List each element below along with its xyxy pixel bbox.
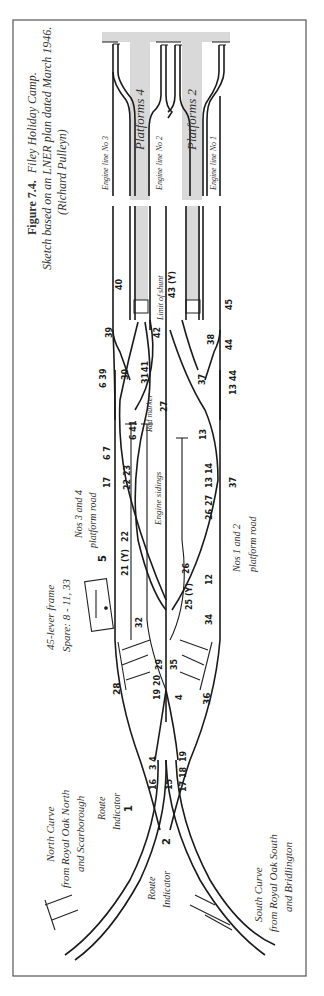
- lever-22: 22: [121, 531, 130, 542]
- engine-line-3-label: Engine line No 3: [101, 136, 110, 191]
- red-marker-label: Red marker: [145, 394, 154, 433]
- platform-shade-top: [102, 32, 230, 42]
- nos-1-2-road-label: platform road: [247, 516, 258, 573]
- lever-32: 32: [135, 617, 144, 628]
- lever-16: 16: [149, 778, 158, 790]
- lever-37: 37: [198, 374, 207, 385]
- lever-27-top: 27: [160, 401, 169, 412]
- lever-13: 13: [199, 429, 208, 440]
- lever-6-41: 6 41: [129, 420, 138, 440]
- platforms-2-label: Platforms 2: [184, 88, 199, 151]
- engine-line-1-label: Engine line No 1: [209, 136, 218, 191]
- lever-29: 29: [155, 658, 164, 670]
- nos-3-4-road-label: platform road: [87, 492, 98, 549]
- south-curve-and-label: and Bridlington: [282, 842, 294, 912]
- lever-21: 21 (Y): [121, 549, 130, 576]
- svg-text:Figure 7.4. Filey Holida: Figure 7.4. Filey Holiday Camp.: [25, 72, 39, 235]
- south-curve-from-label: from Royal Oak South: [267, 834, 279, 932]
- lever-3-4: 3 4: [149, 756, 158, 770]
- platform-4-lower-shade: [134, 206, 148, 302]
- lever-22-23: 22 23: [123, 465, 132, 490]
- lever-44: 44: [225, 338, 234, 350]
- lever-6-39: 6 39: [99, 368, 108, 388]
- north-curve-label: North Curve: [44, 807, 56, 863]
- lever-40: 40: [115, 278, 124, 290]
- lever-35: 35: [170, 658, 179, 670]
- lever-17-18: 17 18: [179, 767, 188, 792]
- lever-25: 25 (Y): [185, 583, 194, 610]
- lever-19-20: 19 20: [153, 675, 162, 700]
- route-indicator-top-label-2: Indicator: [111, 793, 122, 831]
- lever-12: 12: [205, 574, 214, 585]
- lever-15: 15: [165, 778, 174, 790]
- nos-1-2-label: Nos 1 and 2: [231, 524, 242, 573]
- lever-37-lower: 37: [229, 477, 238, 488]
- north-curve-and-label: and Scarborough: [74, 795, 86, 872]
- lever-38: 38: [207, 333, 216, 345]
- lever-41: 41: [141, 360, 150, 372]
- engine-sidings-label: Engine sidings: [153, 471, 163, 526]
- lever-6-7: 6 7: [103, 446, 112, 460]
- lever-31: 31: [141, 372, 150, 384]
- lever-30: 30: [121, 368, 130, 380]
- north-curve-from-label: from Royal Oak North: [59, 789, 71, 888]
- lever-frame-label: 45-lever frame: [44, 585, 56, 650]
- lever-43: 43 (Y): [168, 271, 177, 298]
- lever-2: 2: [161, 838, 172, 845]
- lever-42: 42: [153, 327, 162, 338]
- caption-line2: Sketch based on an LNER plan dated March…: [40, 27, 54, 270]
- route-indicator-bottom-label: Route: [146, 876, 157, 901]
- lever-36: 36: [202, 692, 212, 705]
- lever-26-27: 26 27: [205, 495, 214, 520]
- figure-label: Figure 7.4.: [25, 180, 39, 235]
- lever-45: 45: [225, 298, 234, 310]
- route-indicator-bottom-label-2: Indicator: [161, 871, 172, 909]
- track-diagram: Figure 7.4. Filey Holiday Camp. Sketch b…: [0, 0, 324, 996]
- figure-title: Filey Holiday Camp.: [25, 72, 39, 174]
- lever-5: 5: [97, 555, 108, 562]
- lever-19: 19: [179, 750, 188, 762]
- route-indicator-top-label: Route: [96, 796, 107, 821]
- spare-levers-label: Spare: 8 - 11, 33: [60, 578, 72, 652]
- lever-1: 1: [123, 805, 134, 812]
- lever-26: 26: [182, 562, 191, 574]
- lever-28: 28: [112, 682, 122, 695]
- platforms-4-label: Platforms 4: [132, 88, 147, 151]
- limit-of-shunt-label: Limit of shunt: [156, 275, 165, 321]
- south-curve-label: South Curve: [252, 867, 264, 922]
- lever-34: 34: [205, 613, 214, 625]
- lever-4: 4: [175, 694, 184, 700]
- lever-13-44: 13 44: [229, 370, 238, 395]
- lever-13-14: 13 14: [205, 463, 214, 488]
- engine-line-2-label: Engine line No 2: [155, 136, 164, 191]
- lever-39: 39: [105, 326, 114, 338]
- lever-17: 17: [103, 477, 112, 488]
- caption-credit: (Richard Pulleyn): [55, 129, 69, 215]
- platform-2-lower-shade: [186, 206, 200, 302]
- nos-3-4-label: Nos 3 and 4: [73, 490, 84, 539]
